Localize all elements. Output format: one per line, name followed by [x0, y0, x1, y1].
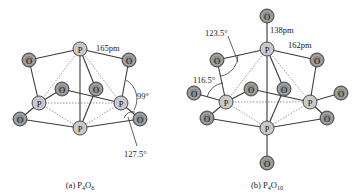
panel-p4o6: O O O O O O P P P P 165pm 99° 127.5° (a)…: [13, 42, 149, 191]
phosphorus-atom: P: [260, 42, 274, 56]
caption-p4o6: (a) P4O6: [66, 180, 94, 191]
svg-text:O: O: [264, 12, 270, 22]
svg-text:O: O: [281, 85, 287, 95]
p-o-bonds: [194, 16, 341, 163]
oxygen-atom: O: [244, 82, 258, 96]
oxygen-atom: O: [210, 53, 224, 67]
caption-p4o10: (b) P4O10: [251, 180, 283, 191]
svg-text:P: P: [37, 99, 42, 109]
svg-text:P: P: [119, 99, 124, 109]
svg-text:O: O: [59, 85, 65, 95]
terminal-oxygen-atom: O: [334, 86, 348, 100]
angle-arc-116: [207, 83, 223, 97]
terminal-oxygen-atom: O: [260, 9, 274, 23]
svg-text:P: P: [265, 124, 270, 134]
svg-text:P: P: [308, 98, 313, 108]
svg-text:P: P: [224, 98, 229, 108]
oxygen-atom: O: [310, 53, 324, 67]
svg-text:O: O: [204, 114, 210, 124]
svg-text:O: O: [324, 114, 330, 124]
oxygen-atom: O: [200, 111, 214, 125]
angle-label-99: 99°: [137, 91, 149, 101]
phosphorus-atom: P: [73, 42, 87, 56]
svg-text:O: O: [17, 115, 23, 125]
terminal-oxygen-atom: O: [260, 156, 274, 170]
svg-text:O: O: [137, 115, 143, 125]
angle-label-123: 123.5°: [205, 28, 228, 38]
svg-text:O: O: [26, 56, 32, 66]
oxygen-atom: O: [122, 53, 136, 67]
svg-text:O: O: [248, 85, 254, 95]
svg-text:O: O: [93, 85, 99, 95]
svg-text:P: P: [265, 45, 270, 55]
svg-text:O: O: [264, 159, 270, 169]
phosphorus-atom: P: [73, 121, 87, 135]
svg-text:O: O: [338, 89, 344, 99]
p4-tetrahedron-edges: [226, 49, 310, 128]
phosphorus-oxides-diagram: O O O O O O P P P P 165pm 99° 127.5° (a)…: [0, 0, 356, 194]
panel-p4o10: O O O O O O O O O O P P P P 138pm 162pm …: [187, 9, 348, 191]
svg-text:O: O: [191, 89, 197, 99]
phosphorus-atom: P: [114, 96, 128, 110]
oxygen-atom: O: [277, 82, 291, 96]
oxygen-atom: O: [133, 112, 147, 126]
terminal-bond-length-label: 138pm: [270, 25, 294, 35]
svg-text:O: O: [126, 56, 132, 66]
svg-text:O: O: [214, 56, 220, 66]
phosphorus-atom: P: [219, 95, 233, 109]
oxygen-atom: O: [13, 112, 27, 126]
svg-text:P: P: [78, 45, 83, 55]
svg-text:O: O: [314, 56, 320, 66]
bond-length-label: 165pm: [96, 43, 120, 53]
phosphorus-atom: P: [303, 95, 317, 109]
oxygen-atom: O: [22, 53, 36, 67]
bridge-bond-length-label: 162pm: [288, 40, 312, 50]
oxygen-atom: O: [320, 111, 334, 125]
phosphorus-atom: P: [260, 121, 274, 135]
angle-label-116: 116.5°: [193, 75, 215, 85]
terminal-oxygen-atom: O: [187, 86, 201, 100]
svg-text:P: P: [78, 124, 83, 134]
oxygen-atom: O: [89, 82, 103, 96]
oxygen-atom: O: [55, 82, 69, 96]
angle-label-127: 127.5°: [124, 149, 147, 159]
phosphorus-atom: P: [32, 96, 46, 110]
